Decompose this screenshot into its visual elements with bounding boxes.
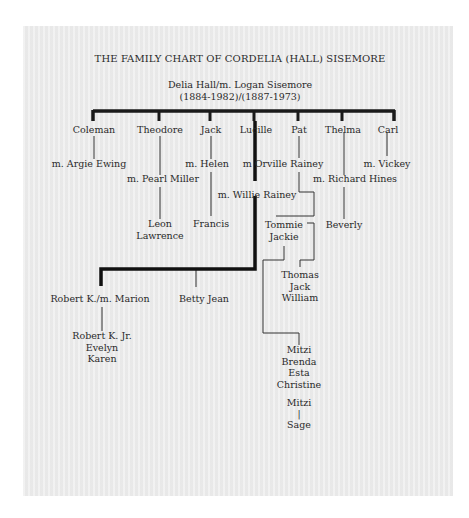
great-great-grandchild-group: Mitzi | Sage bbox=[287, 397, 312, 430]
child-name: Pat bbox=[291, 124, 306, 136]
spouse-name: m. Richard Hines bbox=[313, 173, 397, 185]
grandchild-name: Leon bbox=[136, 218, 183, 230]
great-grandchild-name: Karen bbox=[72, 353, 131, 365]
great-grandchild-name: Brenda bbox=[277, 356, 321, 368]
child-name: Thelma bbox=[325, 124, 361, 136]
great-grandchild-name: William bbox=[281, 292, 319, 304]
great-grandchildren-list: Thomas Jack William bbox=[281, 269, 319, 304]
grandchild-name: Robert K./m. Marion bbox=[50, 293, 149, 305]
root-dates: (1884-1982)/(1887-1973) bbox=[179, 91, 300, 103]
spouse-name: m. Vickey bbox=[364, 158, 411, 170]
grandchild-name: Tommie bbox=[265, 219, 303, 231]
connector-lines bbox=[0, 0, 469, 518]
spouse-name: m Orville Rainey bbox=[243, 158, 324, 170]
child-name: Lucille bbox=[240, 124, 273, 136]
great-grandchild-name: Mitzi bbox=[277, 344, 321, 356]
grandchild-name: Lawrence bbox=[136, 230, 183, 242]
grandchildren-list: Leon Lawrence bbox=[136, 218, 183, 241]
child-name: Theodore bbox=[137, 124, 183, 136]
great-grandchild-name: Thomas bbox=[281, 269, 319, 281]
great-great-grandchild-name: Sage bbox=[287, 419, 312, 430]
root-couple: Delia Hall/m. Logan Sisemore bbox=[168, 79, 312, 91]
separator-line: | bbox=[287, 408, 312, 419]
great-grandchildren-list: Robert K. Jr. Evelyn Karen bbox=[72, 330, 131, 365]
grandchild-name: Betty Jean bbox=[179, 293, 229, 305]
child-name: Jack bbox=[201, 124, 222, 136]
great-grandchild-name: Evelyn bbox=[72, 342, 131, 354]
spouse-name: m. Willie Rainey bbox=[218, 189, 297, 201]
child-name: Carl bbox=[378, 124, 399, 136]
grandchild-name: Francis bbox=[193, 218, 229, 230]
parent-name: Mitzi bbox=[287, 397, 312, 408]
grandchildren-list: Tommie Jackie bbox=[265, 219, 303, 242]
child-name: Coleman bbox=[73, 124, 115, 136]
spouse-name: m. Argie Ewing bbox=[52, 158, 127, 170]
great-grandchildren-list: Mitzi Brenda Esta Christine bbox=[277, 344, 321, 390]
grandchild-name: Jackie bbox=[265, 231, 303, 243]
great-grandchild-name: Robert K. Jr. bbox=[72, 330, 131, 342]
family-tree-diagram: THE FAMILY CHART OF CORDELIA (HALL) SISE… bbox=[0, 0, 469, 518]
spouse-name: m. Helen bbox=[185, 158, 229, 170]
chart-title: THE FAMILY CHART OF CORDELIA (HALL) SISE… bbox=[95, 53, 386, 65]
grandchild-name: Beverly bbox=[326, 219, 363, 231]
great-grandchild-name: Jack bbox=[281, 281, 319, 293]
spouse-name: m. Pearl Miller bbox=[127, 173, 199, 185]
great-grandchild-name: Christine bbox=[277, 379, 321, 391]
great-grandchild-name: Esta bbox=[277, 367, 321, 379]
